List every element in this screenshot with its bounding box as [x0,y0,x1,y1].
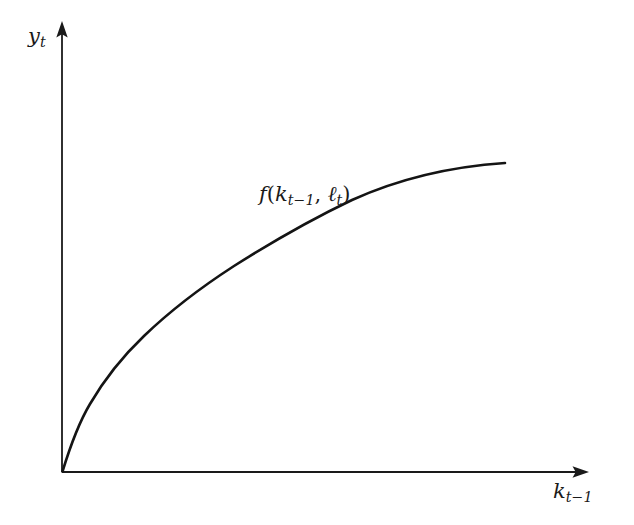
curve-label-function: f [259,182,267,206]
curve-label-open-paren: ( [267,182,275,206]
curve-label-close-paren: ) [342,182,350,206]
production-function-curve [63,163,506,472]
production-function-diagram: yt kt−1 f(kt−1, ℓt) [0,0,634,525]
curve-label-arg1: k [275,182,288,206]
diagram-canvas [0,0,634,525]
x-axis-label-base: k [553,479,566,503]
curve-label-comma: , [314,182,327,206]
x-axis-label-subscript: t−1 [566,489,593,505]
y-axis-label-subscript: t [40,34,46,50]
curve-label-arg1-subscript: t−1 [288,192,315,208]
curve-label-arg2: ℓ [328,182,337,206]
y-axis-label-base: y [28,24,40,48]
x-axis-label: kt−1 [553,481,593,502]
curve-function-label: f(kt−1, ℓt) [259,184,351,205]
y-axis-label: yt [28,26,46,47]
